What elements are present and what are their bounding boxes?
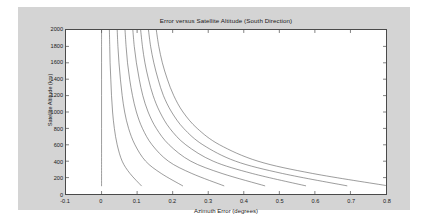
chart-title: Error versus Satellite Altitude (South D… <box>65 17 387 24</box>
y-tick-label: 1800 <box>39 43 63 49</box>
x-axis-label: Azimuth Error (degrees) <box>65 208 387 214</box>
data-curve <box>156 30 386 186</box>
x-axis-tick-labels: -0.100.10.20.30.40.50.60.70.8 <box>65 198 387 208</box>
x-tick-label: -0.1 <box>50 198 80 204</box>
data-curve <box>141 30 306 186</box>
x-tick-label: 0.5 <box>265 198 295 204</box>
data-curve <box>109 30 141 186</box>
x-tick-label: 0 <box>86 198 116 204</box>
y-tick-label: 2000 <box>39 26 63 32</box>
x-tick-label: 0.6 <box>300 198 330 204</box>
x-tick-label: 0.7 <box>336 198 366 204</box>
y-tick-label: 1600 <box>39 59 63 65</box>
y-axis-tick-labels: 0200400600800100012001400160018002000 <box>37 29 63 195</box>
plot-curves <box>66 30 386 194</box>
plot-area <box>65 29 387 195</box>
chart-screenshot: Error versus Satellite Altitude (South D… <box>0 0 423 218</box>
y-tick-label: 800 <box>39 126 63 132</box>
y-tick-label: 1200 <box>39 92 63 98</box>
y-tick-label: 400 <box>39 159 63 165</box>
x-tick-label: 0.8 <box>372 198 402 204</box>
y-tick-label: 200 <box>39 175 63 181</box>
data-curve <box>148 30 346 186</box>
y-tick-label: 600 <box>39 142 63 148</box>
x-tick-label: 0.2 <box>157 198 187 204</box>
data-curve <box>125 30 224 186</box>
y-tick-label: 1400 <box>39 76 63 82</box>
x-tick-label: 0.3 <box>193 198 223 204</box>
data-curve <box>133 30 265 186</box>
y-tick-label: 1000 <box>39 109 63 115</box>
data-curve <box>117 30 182 186</box>
x-tick-label: 0.1 <box>122 198 152 204</box>
x-tick-label: 0.4 <box>229 198 259 204</box>
figure-window: Error versus Satellite Altitude (South D… <box>18 7 410 210</box>
